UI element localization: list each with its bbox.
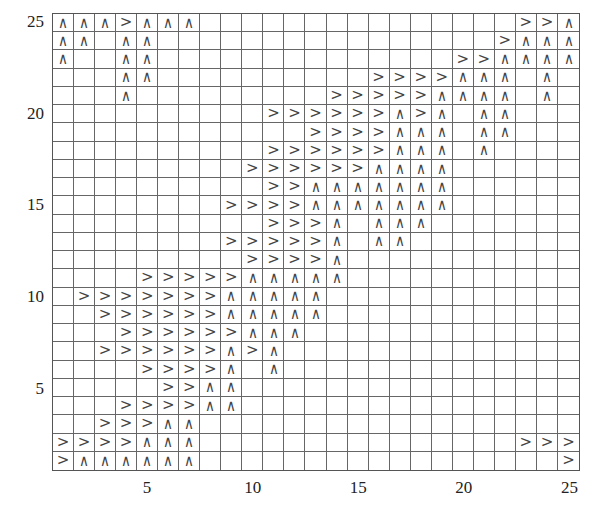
up-wedge-icon: ∧ <box>289 325 299 341</box>
right-chevron-icon: > <box>372 88 385 103</box>
grid-cell <box>516 123 537 141</box>
grid-cell <box>537 288 558 306</box>
grid-cell <box>263 123 284 141</box>
grid-cell <box>116 123 137 141</box>
grid-cell <box>411 415 432 433</box>
grid-cell <box>537 361 558 379</box>
grid-cell <box>453 434 474 452</box>
grid-cell: ∧ <box>411 215 432 233</box>
grid-cell: ∧ <box>411 196 432 214</box>
grid-cell: > <box>179 306 200 324</box>
grid-cell: > <box>137 269 158 287</box>
grid-cell <box>95 69 116 87</box>
grid-cell: > <box>263 160 284 178</box>
up-wedge-icon: ∧ <box>121 88 131 104</box>
grid-cell <box>537 397 558 415</box>
grid-cell: ∧ <box>305 306 326 324</box>
up-wedge-icon: ∧ <box>142 453 152 469</box>
grid-cell <box>369 342 390 360</box>
grid-cell <box>453 215 474 233</box>
up-wedge-icon: ∧ <box>247 306 257 322</box>
grid-cell <box>179 50 200 68</box>
grid-cell: > <box>305 160 326 178</box>
grid-cell: > <box>348 160 369 178</box>
grid-cell <box>95 105 116 123</box>
x-tick-label: 15 <box>338 478 378 498</box>
grid-cell: ∧ <box>179 14 200 32</box>
grid-cell <box>53 415 74 433</box>
grid-cell <box>495 306 516 324</box>
up-wedge-icon: ∧ <box>268 325 278 341</box>
grid-cell <box>53 269 74 287</box>
grid-cell <box>495 342 516 360</box>
grid-cell: > <box>95 415 116 433</box>
right-chevron-icon: > <box>372 125 385 140</box>
right-chevron-icon: > <box>120 289 133 304</box>
grid-cell <box>453 342 474 360</box>
grid-cell: ∧ <box>327 269 348 287</box>
grid-cell <box>516 397 537 415</box>
grid-cell: ∧ <box>327 215 348 233</box>
grid-cell: > <box>263 196 284 214</box>
grid-cell: ∧ <box>263 361 284 379</box>
grid-cell <box>495 361 516 379</box>
grid-cell: ∧ <box>348 178 369 196</box>
grid-cell <box>537 251 558 269</box>
grid-cell <box>95 50 116 68</box>
grid-cell <box>137 379 158 397</box>
right-chevron-icon: > <box>183 380 196 395</box>
right-chevron-icon: > <box>288 216 301 231</box>
grid-cell <box>305 397 326 415</box>
grid-cell <box>158 178 179 196</box>
grid-cell <box>390 434 411 452</box>
grid-cell <box>95 87 116 105</box>
right-chevron-icon: > <box>57 435 70 450</box>
grid-cell: ∧ <box>495 69 516 87</box>
right-chevron-icon: > <box>204 362 217 377</box>
up-wedge-icon: ∧ <box>332 197 342 213</box>
grid-cell <box>432 50 453 68</box>
grid-cell: > <box>348 87 369 105</box>
right-chevron-icon: > <box>288 161 301 176</box>
grid-cell <box>537 142 558 160</box>
grid-cell <box>537 452 558 470</box>
right-chevron-icon: > <box>351 88 364 103</box>
right-chevron-icon: > <box>183 398 196 413</box>
grid-cell: > <box>137 324 158 342</box>
grid-cell <box>537 178 558 196</box>
x-tick-label: 20 <box>444 478 484 498</box>
grid-cell <box>137 105 158 123</box>
grid-cell <box>474 178 495 196</box>
grid-cell <box>369 306 390 324</box>
grid-cell <box>74 105 95 123</box>
up-wedge-icon: ∧ <box>226 343 236 359</box>
grid-cell <box>516 69 537 87</box>
grid-cell <box>95 379 116 397</box>
grid-cell <box>200 32 221 50</box>
grid-cell <box>200 415 221 433</box>
grid-cell <box>200 233 221 251</box>
grid-cell <box>348 14 369 32</box>
grid-cell <box>116 160 137 178</box>
grid-cell <box>369 32 390 50</box>
up-wedge-icon: ∧ <box>226 398 236 414</box>
grid-cell <box>200 142 221 160</box>
grid-cell <box>263 32 284 50</box>
grid-cell <box>537 269 558 287</box>
grid-cell <box>369 379 390 397</box>
up-wedge-icon: ∧ <box>184 416 194 432</box>
grid-cell <box>390 342 411 360</box>
up-wedge-icon: ∧ <box>58 33 68 49</box>
grid-cell <box>95 361 116 379</box>
grid-cell: > <box>348 105 369 123</box>
grid-cell <box>474 196 495 214</box>
grid-cell: > <box>137 397 158 415</box>
grid-cell <box>327 452 348 470</box>
up-wedge-icon: ∧ <box>311 306 321 322</box>
up-wedge-icon: ∧ <box>542 33 552 49</box>
grid-cell <box>137 196 158 214</box>
grid-cell <box>327 32 348 50</box>
grid-cell <box>432 269 453 287</box>
grid-cell: ∧ <box>53 32 74 50</box>
grid-cell <box>179 32 200 50</box>
